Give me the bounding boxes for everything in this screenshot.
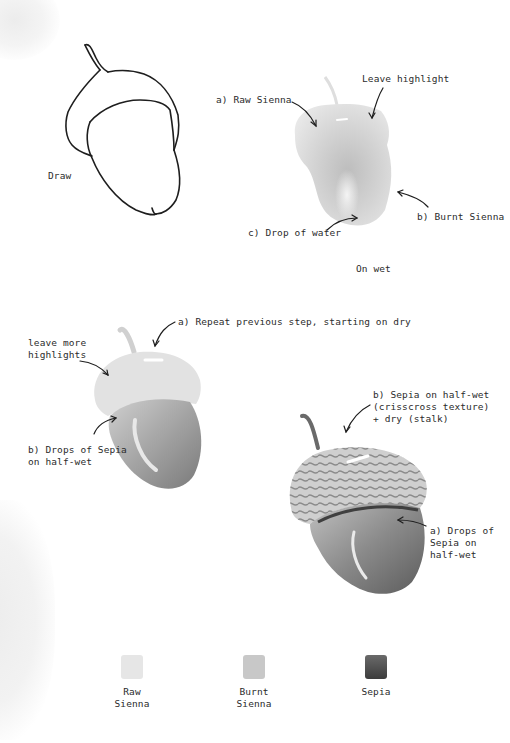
swatch-label-sepia: Sepia <box>352 686 400 698</box>
swatch-sepia <box>365 655 387 679</box>
annotation-arrows-step3-4 <box>0 300 510 560</box>
swatch-burnt-sienna <box>243 655 265 679</box>
annotation-arrows-step2 <box>0 0 510 300</box>
swatch-raw-sienna <box>121 655 143 679</box>
tutorial-page: Draw a) Raw Sienna Leave highlight b) Bu… <box>0 0 510 743</box>
swatch-label-raw-sienna: Raw Sienna <box>108 686 156 710</box>
swatch-label-burnt-sienna: Burnt Sienna <box>230 686 278 710</box>
